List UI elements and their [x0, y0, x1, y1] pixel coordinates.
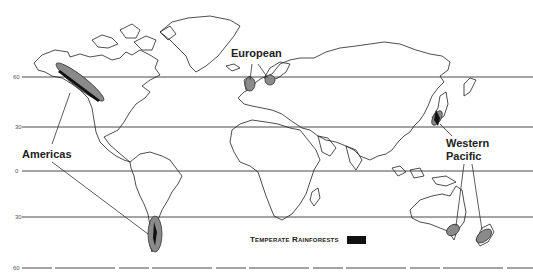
region-label-european: European	[231, 47, 282, 60]
latitude-label-0: 0	[15, 168, 18, 174]
latitude-label-30s: 30	[15, 214, 22, 220]
region-label-americas: Americas	[22, 148, 72, 161]
region-label-western-pacific: Western Pacific	[446, 137, 489, 163]
legend: Temperate Rainforests	[250, 235, 366, 244]
leader-lines	[52, 64, 482, 234]
region-label-pacific: Pacific	[446, 150, 489, 163]
world-map: 60 30 0 30 60 Americas European Western …	[0, 0, 533, 276]
region-label-western: Western	[446, 137, 489, 150]
latitude-label-60n: 60	[13, 74, 20, 80]
legend-label: Temperate Rainforests	[250, 235, 339, 244]
rainforest-cores	[58, 70, 440, 246]
rainforest-regions	[53, 59, 494, 252]
legend-swatch	[347, 236, 366, 244]
latitude-label-30n: 30	[15, 124, 22, 130]
latitude-label-60s: 60	[13, 265, 20, 271]
